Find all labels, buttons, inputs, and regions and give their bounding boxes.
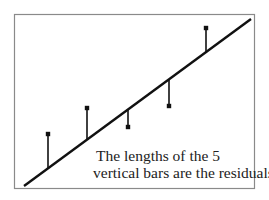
data-point-marker [46, 132, 50, 136]
data-point-marker [85, 106, 89, 110]
data-point-marker [167, 104, 171, 108]
caption-line-1: The lengths of the 5 [96, 147, 220, 164]
data-point-marker [126, 125, 130, 129]
data-point-marker [204, 26, 208, 30]
residual-plot: The lengths of the 5 vertical bars are t… [0, 0, 269, 200]
caption-line-2: vertical bars are the residuals. [93, 164, 269, 181]
